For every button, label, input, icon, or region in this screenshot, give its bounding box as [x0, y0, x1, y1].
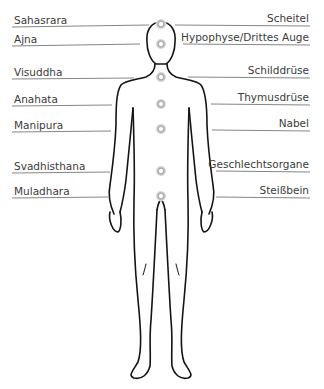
- label-geschlechtsorgane: Geschlechtsorgane: [208, 158, 309, 170]
- label-sahasrara: Sahasrara: [14, 14, 67, 26]
- chakra-anahata-icon: [155, 98, 167, 110]
- label-anahata: Anahata: [14, 93, 58, 105]
- chakra-manipura-icon: [155, 123, 167, 135]
- chakra-ajna-icon: [155, 38, 167, 50]
- label-steissbein: Steißbein: [260, 184, 309, 196]
- label-visuddha: Visuddha: [14, 66, 62, 78]
- label-schilddruese: Schilddrüse: [248, 64, 309, 76]
- label-manipura: Manipura: [14, 119, 63, 131]
- chakra-muladhara-icon: [155, 190, 167, 202]
- chakra-points: [155, 18, 167, 202]
- label-hypophyse: Hypophyse/Drittes Auge: [181, 31, 309, 43]
- label-scheitel: Scheitel: [267, 12, 309, 24]
- label-svadhisthana: Svadhisthana: [14, 160, 85, 172]
- left-leader-lines: [12, 25, 149, 198]
- chakra-sahasrara-icon: [155, 18, 167, 30]
- chakra-visuddha-icon: [155, 71, 167, 83]
- chakra-svadhisthana-icon: [155, 165, 167, 177]
- label-muladhara: Muladhara: [14, 185, 70, 197]
- label-nabel: Nabel: [279, 117, 309, 129]
- label-ajna: Ajna: [14, 33, 37, 45]
- label-thymusdruese: Thymusdrüse: [238, 91, 309, 103]
